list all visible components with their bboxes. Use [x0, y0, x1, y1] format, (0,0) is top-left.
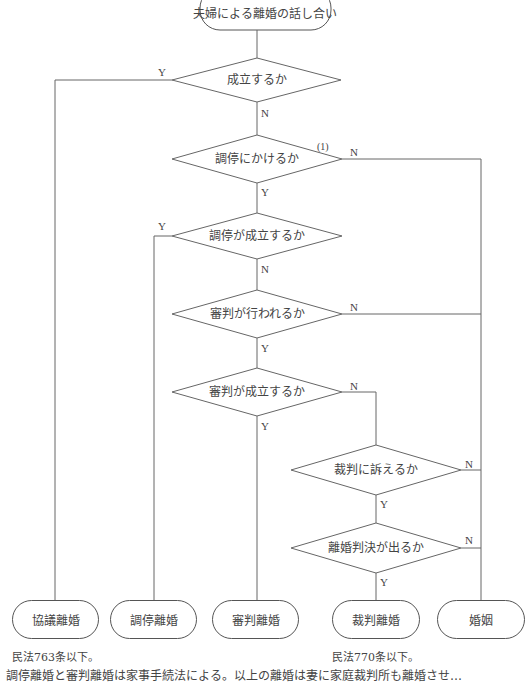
decision-lawsuit: 裁判に訴えるか [334, 463, 418, 477]
outcome-saiban-rikon: 裁判離婚 [332, 600, 420, 639]
d7-yes-label: Y [380, 576, 388, 588]
d2-annotation: (1) [317, 141, 329, 153]
outcome-shinpan-rikon: 審判離婚 [212, 600, 299, 639]
note-saiban-article: 民法770条以下。 [332, 648, 419, 664]
footer-text: 調停離婚と審判離婚は家事手続法による。以上の離婚は妻に家庭裁判所も離婚させ… [6, 666, 462, 683]
decision-agreement: 成立するか [227, 73, 287, 87]
d2-no-label: N [350, 146, 358, 158]
decision-adjudication-success: 審判が成立するか [209, 385, 305, 399]
d4-no-label: N [350, 301, 358, 313]
decision-judgment: 離婚判決が出るか [328, 541, 424, 555]
d6-yes-label: Y [380, 498, 388, 510]
outcome-marriage: 婚姻 [437, 600, 525, 639]
start-node: 夫婦による離婚の話し合い [193, 7, 337, 21]
d6-no-label: N [465, 458, 473, 470]
d3-no-label: N [261, 263, 269, 275]
d2-yes-label: Y [261, 186, 269, 198]
d4-yes-label: Y [261, 342, 269, 354]
d1-no-label: N [261, 107, 269, 119]
d3-yes-label: Y [158, 220, 166, 232]
note-kyogi-article: 民法763条以下。 [12, 648, 99, 664]
outcome-chotei-rikon: 調停離婚 [110, 600, 197, 639]
d5-no-label: N [350, 380, 358, 392]
d5-yes-label: Y [261, 420, 269, 432]
outcome-kyogi-rikon: 協議離婚 [12, 600, 99, 639]
d1-yes-label: Y [158, 66, 166, 78]
decision-mediation: 調停にかけるか [215, 152, 299, 166]
decision-adjudication: 審判が行われるか [210, 307, 305, 321]
d7-no-label: N [465, 534, 473, 546]
decision-mediation-success: 調停が成立するか [209, 229, 305, 243]
